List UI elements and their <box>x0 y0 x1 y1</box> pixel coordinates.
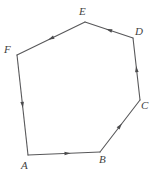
arrow-head-DE <box>105 27 112 32</box>
vertex-label-b: B <box>99 154 106 165</box>
edges-group <box>17 22 140 155</box>
polygon-svg <box>0 0 157 176</box>
arrow-head-EF <box>47 36 54 42</box>
hexagon-figure: ABCDEF <box>0 0 157 176</box>
arrow-head-AB <box>64 151 70 155</box>
vertex-label-d: D <box>135 26 143 37</box>
vertex-label-e: E <box>79 6 86 17</box>
vertex-label-f: F <box>4 44 11 55</box>
vertex-label-a: A <box>21 160 28 171</box>
edge-AB <box>28 152 100 155</box>
arrow-heads-group <box>20 27 138 155</box>
vertex-label-c: C <box>141 100 148 111</box>
